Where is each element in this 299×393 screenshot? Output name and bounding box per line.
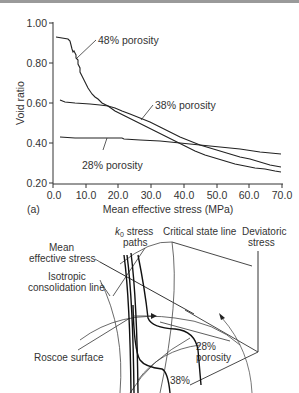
label-38: 38% — [170, 375, 190, 386]
leader-roscoe — [78, 318, 130, 350]
label-deviatoric: Deviatoric — [242, 226, 286, 237]
label-deviatoric-stress: stress — [248, 237, 275, 248]
roscoe-surface-diagram: k0 stress paths Critical state line Devi… — [0, 0, 299, 393]
label-roscoe-surface: Roscoe surface — [34, 352, 104, 363]
label-28-porosity: porosity — [196, 352, 231, 363]
roscoe-arc-left — [100, 280, 121, 393]
roscoe-arc-low — [138, 345, 200, 380]
label-28: 28% — [196, 341, 216, 352]
arrow-head-right — [219, 313, 225, 320]
label-isotropic: Isotropic — [48, 271, 86, 282]
arrow-head-left — [151, 313, 157, 319]
label-mean: Mean — [49, 242, 74, 253]
leader-mean — [95, 259, 100, 262]
label-consolidation-line: consolidation line — [28, 282, 105, 293]
label-mean-effective-stress: effective stress — [29, 253, 96, 264]
label-critical-state-line: Critical state line — [163, 226, 237, 237]
label-k0-paths-line2: paths — [123, 237, 147, 248]
critical-state-line — [172, 242, 252, 266]
